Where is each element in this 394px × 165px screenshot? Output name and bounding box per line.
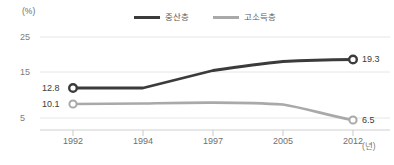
data-label-high-income-1992: 10.1 [42,99,60,109]
series-line-high-income [73,103,353,120]
x-tick-label-1994: 1994 [133,136,153,146]
data-label-high-income-2012: 6.5 [362,115,375,125]
data-label-middle-class-2012: 19.3 [362,54,380,64]
series-line-middle-class [73,60,353,89]
data-point-high-income-2012 [349,116,356,123]
data-label-middle-class-1992: 12.8 [42,83,60,93]
data-point-middle-class-1992 [69,84,77,92]
x-tick-label-2005: 2005 [273,136,293,146]
data-point-middle-class-2012 [349,56,357,64]
data-point-high-income-1992 [69,100,76,107]
x-tick-label-1992: 1992 [63,136,83,146]
x-axis-unit-label: (년) [362,139,376,151]
x-tick-label-2012: 2012 [343,136,363,146]
x-tick-label-1997: 1997 [203,136,223,146]
line-chart: (%) 25 15 5 중산층 고소득층 [0,0,394,165]
